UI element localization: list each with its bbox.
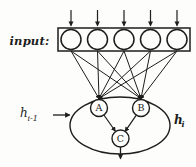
node-a: A: [91, 100, 108, 117]
input-to-b-connection: [141, 51, 177, 99]
input-to-a-connection: [98, 51, 100, 99]
input-units: [61, 30, 187, 50]
figure-canvas: A B C input: h i-1 h i: [0, 0, 196, 167]
node-b: B: [133, 100, 150, 117]
node-a-label: A: [95, 102, 103, 113]
input-arrows: [71, 10, 177, 26]
node-c: C: [112, 130, 129, 147]
input-unit: [141, 30, 161, 50]
input-unit: [167, 30, 187, 50]
a-to-c-connection: [104, 115, 115, 131]
network-diagram: A B C input: h i-1 h i: [0, 0, 196, 167]
input-unit: [114, 30, 134, 50]
node-c-label: C: [117, 133, 124, 144]
input-label: input:: [10, 34, 50, 48]
input-to-hidden-connections: [71, 51, 177, 99]
input-unit: [88, 30, 108, 50]
node-b-label: B: [138, 102, 145, 113]
current-state-label-subscript: i: [182, 119, 185, 129]
input-to-b-connection: [98, 51, 142, 99]
input-to-a-connection: [71, 51, 99, 99]
b-to-c-connection: [125, 115, 136, 131]
prev-state-label: h i-1: [20, 106, 38, 123]
current-state-label: h i: [174, 113, 185, 129]
input-unit: [61, 30, 81, 50]
prev-state-label-subscript: i-1: [28, 114, 38, 123]
